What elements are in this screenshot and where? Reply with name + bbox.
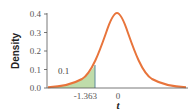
tail-area-annotation: 0.1 xyxy=(58,66,69,76)
y-tick-label: 0.2 xyxy=(30,46,41,56)
y-tick-label: 0.4 xyxy=(30,9,42,19)
y-tick-label: 0.0 xyxy=(30,83,42,93)
x-tick-label-critical: -1.363 xyxy=(74,91,98,101)
y-axis-label: Density xyxy=(10,33,21,70)
t-distribution-chart: 0.4 0.3 0.2 0.1 0.0 Density -1.363 0 t 0… xyxy=(0,0,192,110)
y-tick-label: 0.3 xyxy=(30,28,42,38)
y-tick-label: 0.1 xyxy=(30,65,41,75)
density-curve xyxy=(48,13,186,87)
shaded-tail-area xyxy=(48,65,95,88)
